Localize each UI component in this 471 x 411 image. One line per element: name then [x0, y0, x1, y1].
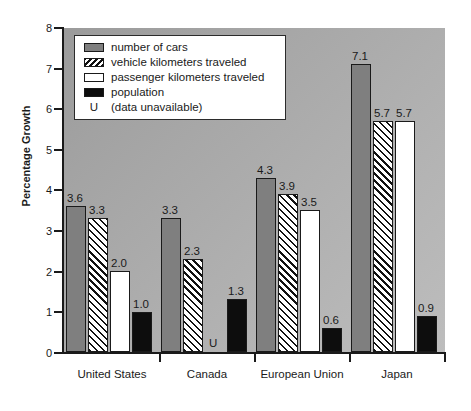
bar-vehicle-km-4	[373, 121, 393, 352]
bar-cars-2	[161, 218, 181, 352]
legend-swatch-black-icon	[84, 88, 104, 97]
legend-item-vehicle-kilometers-traveled: vehicle kilometers traveled	[80, 55, 280, 69]
bar-value-label: 5.7	[396, 107, 412, 119]
legend-label-passenger-kilometers-traveled: passenger kilometers traveled	[111, 71, 264, 83]
bar-chart: Percentage Growth 8 7 6 5 4 3 2 1 0 Uni	[0, 0, 471, 411]
legend-label-population: population	[111, 86, 164, 98]
y-tick-label-6: 6	[32, 103, 52, 115]
bar-passenger-km-4	[395, 121, 415, 352]
bar-value-label: 3.3	[89, 204, 105, 216]
legend-item-number-of-cars: number of cars	[80, 40, 280, 54]
bar-value-label: 7.1	[352, 50, 368, 62]
bar-cars-1	[66, 206, 86, 352]
bar-population-4	[417, 316, 437, 352]
x-axis-label-japan: Japan	[381, 368, 412, 380]
legend-label-data-unavailable: (data unavailable)	[111, 101, 202, 113]
x-tick-separator-1	[159, 353, 161, 362]
y-tick-label-8: 8	[32, 22, 52, 34]
x-tick-separator-3	[349, 353, 351, 362]
y-tick-label-5: 5	[32, 144, 52, 156]
bar-value-label: 1.3	[228, 285, 244, 297]
y-tick-label-7: 7	[32, 63, 52, 75]
legend-swatch-hatch-icon	[84, 58, 104, 67]
y-axis-title: Percentage Growth	[20, 86, 32, 226]
legend-label-vehicle-kilometers-traveled: vehicle kilometers traveled	[111, 56, 247, 68]
bar-value-label: 0.9	[418, 302, 434, 314]
bar-value-label: 0.6	[323, 314, 339, 326]
y-tick-label-0: 0	[32, 347, 52, 359]
bar-value-label: 1.0	[133, 298, 149, 310]
y-tick-label-2: 2	[32, 266, 52, 278]
bar-population-2	[227, 299, 247, 352]
legend-item-passenger-kilometers-traveled: passenger kilometers traveled	[80, 70, 280, 84]
bar-value-label: 2.0	[111, 257, 127, 269]
bar-value-label: 4.3	[257, 164, 273, 176]
legend-swatch-gray-icon	[84, 43, 104, 52]
legend-label-number-of-cars: number of cars	[111, 41, 188, 53]
bar-unavailable-marker: U	[209, 337, 217, 349]
bar-passenger-km-3	[300, 210, 320, 352]
chart-legend: number of cars vehicle kilometers travel…	[74, 35, 286, 120]
bar-cars-4	[351, 64, 371, 352]
legend-item-population: population	[80, 85, 280, 99]
x-axis-label-european-union: European Union	[260, 368, 343, 380]
bar-value-label: 5.7	[374, 107, 390, 119]
bar-vehicle-km-1	[88, 218, 108, 352]
legend-swatch-white-icon	[84, 73, 104, 82]
x-tick-separator-4	[444, 353, 446, 362]
bar-value-label: 3.5	[301, 196, 317, 208]
bar-cars-3	[256, 178, 276, 352]
bar-value-label: 3.3	[162, 204, 178, 216]
legend-marker-u: U	[84, 101, 104, 113]
bar-value-label: 3.6	[67, 192, 83, 204]
y-tick-label-4: 4	[32, 184, 52, 196]
legend-item-data-unavailable: U (data unavailable)	[80, 100, 280, 114]
bar-value-label: 3.9	[279, 180, 295, 192]
x-axis-label-united-states: United States	[77, 368, 146, 380]
bar-vehicle-km-3	[278, 194, 298, 352]
bar-population-1	[132, 312, 152, 353]
bar-passenger-km-1	[110, 271, 130, 352]
bar-vehicle-km-2	[183, 259, 203, 352]
bar-value-label: 2.3	[184, 245, 200, 257]
y-tick-label-3: 3	[32, 225, 52, 237]
bar-population-3	[322, 328, 342, 352]
x-axis-label-canada: Canada	[187, 368, 227, 380]
y-tick-label-1: 1	[32, 306, 52, 318]
x-tick-separator-2	[254, 353, 256, 362]
